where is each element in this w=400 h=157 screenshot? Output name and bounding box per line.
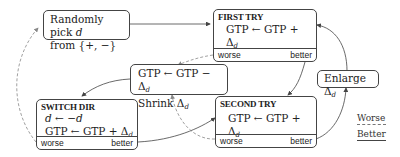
- second-try-better: better: [290, 135, 312, 147]
- enlarge-label: Enlarge Δd: [324, 72, 372, 102]
- shrink-label: Shrink Δd: [138, 97, 221, 114]
- node-shrink: GTP ← GTP − Δd Shrink Δd: [130, 64, 228, 95]
- first-try-title: FIRST TRY: [214, 10, 316, 23]
- first-try-better: better: [290, 49, 312, 61]
- switch-dir-flip: d ← −d: [37, 113, 137, 125]
- first-try-outcomes: worse better: [214, 48, 316, 61]
- legend-worse: Worse: [357, 113, 386, 125]
- switch-dir-outcomes: worse better: [37, 136, 137, 149]
- first-try-worse: worse: [218, 49, 241, 61]
- edge-first-better-to-second: [288, 62, 305, 95]
- switch-dir-worse: worse: [41, 137, 64, 149]
- state-diagram: Randomly pick d from {+, −} FIRST TRY GT…: [0, 0, 400, 157]
- legend: Worse Better: [357, 113, 386, 141]
- edge-enlarge-to-first: [317, 25, 347, 71]
- node-first-try: FIRST TRY GTP ← GTP + Δd worse better: [213, 9, 317, 62]
- shrink-update: GTP ← GTP − Δd: [138, 67, 221, 97]
- node-second-try: SECOND TRY GTP ← GTP + Δd worse better: [215, 96, 317, 148]
- switch-dir-better: better: [111, 137, 133, 149]
- node-random-pick: Randomly pick d from {+, −}: [43, 10, 130, 40]
- edge-switch-better-to-second: [138, 118, 215, 142]
- random-pick-line2: from {+, −}: [50, 39, 123, 52]
- node-enlarge: Enlarge Δd: [317, 70, 379, 88]
- legend-better: Better: [357, 129, 386, 141]
- edge-shrink-to-switch: [82, 79, 130, 96]
- second-try-title: SECOND TRY: [216, 97, 316, 110]
- edge-switch-worse-to-random: [17, 28, 38, 142]
- second-try-outcomes: worse better: [216, 134, 316, 147]
- second-try-worse: worse: [220, 135, 243, 147]
- random-pick-line1: Randomly pick d: [50, 13, 123, 39]
- node-switch-dir: SWITCH DIR d ← −d GTP ← GTP + Δd worse b…: [36, 99, 138, 150]
